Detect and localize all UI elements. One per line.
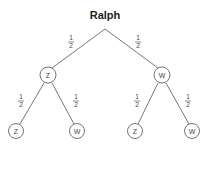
node-w-level1: W [154, 67, 170, 83]
tree-title: Ralph [90, 9, 121, 21]
svg-text:W: W [189, 128, 196, 135]
svg-text:Z: Z [133, 128, 138, 135]
node-w-w: W [185, 124, 200, 139]
svg-text:2: 2 [19, 101, 23, 108]
svg-text:2: 2 [136, 42, 140, 49]
probability-tree: Ralph 1 2 1 2 Z W 1 2 1 2 1 2 [0, 0, 210, 176]
svg-text:1: 1 [69, 34, 73, 41]
svg-text:Z: Z [14, 128, 19, 135]
prob-w-left: 1 2 [134, 93, 140, 108]
svg-text:1: 1 [135, 93, 139, 100]
svg-text:2: 2 [74, 101, 78, 108]
svg-text:1: 1 [74, 93, 78, 100]
svg-text:1: 1 [136, 34, 140, 41]
svg-text:2: 2 [135, 101, 139, 108]
prob-w-right: 1 2 [185, 93, 191, 108]
node-z-z: Z [9, 124, 24, 139]
svg-text:Z: Z [46, 72, 51, 79]
prob-z-left: 1 2 [18, 93, 24, 108]
svg-text:2: 2 [186, 101, 190, 108]
prob-root-right: 1 2 [135, 34, 141, 49]
node-z-level1: Z [40, 67, 56, 83]
svg-text:1: 1 [19, 93, 23, 100]
node-w-z: Z [128, 124, 143, 139]
prob-root-left: 1 2 [68, 34, 74, 49]
prob-z-right: 1 2 [73, 93, 79, 108]
svg-text:W: W [74, 128, 81, 135]
svg-text:2: 2 [69, 42, 73, 49]
svg-text:W: W [159, 72, 166, 79]
svg-text:1: 1 [186, 93, 190, 100]
node-z-w: W [70, 124, 85, 139]
